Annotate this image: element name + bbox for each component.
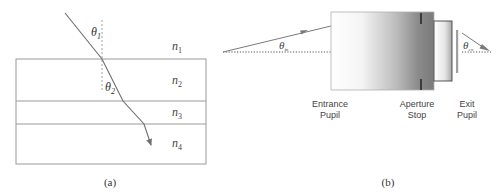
aperture-stop-label-line2: Stop: [408, 110, 427, 120]
exit-section-box: [434, 21, 452, 81]
entrance-pupil-label-line1: Entrance: [312, 99, 348, 109]
entrance-pupil-label-line2: Pupil: [320, 110, 340, 120]
incoming-ray: [223, 26, 331, 52]
theta-in-label: θin: [279, 39, 289, 52]
n3-label: n3: [172, 105, 182, 121]
theta-1-label: θ1: [91, 25, 101, 41]
exit-pupil-label-line2: Pupil: [457, 110, 477, 120]
n1-label: n1: [172, 39, 182, 55]
refracted-ray: [65, 13, 151, 145]
exit-pupil-label-line1: Exit: [459, 99, 475, 109]
exit-ray-arrowhead: [480, 44, 491, 51]
aperture-stop-label-line1: Aperture: [400, 99, 435, 109]
optical-system-box: [331, 12, 434, 90]
panel-a-caption: (a): [104, 176, 117, 189]
n4-label: n4: [172, 136, 182, 152]
n2-label: n2: [172, 73, 182, 89]
theta-ex-label: θex: [463, 39, 474, 52]
figure-canvas: θ1 θ2 n1 n2 n3 n4 (a) θin θex Entra: [0, 0, 500, 192]
panel-b-pupil-diagram: θin θex Entrance Pupil Aperture Stop Exi…: [223, 12, 491, 189]
panel-a-layered-media: θ1 θ2 n1 n2 n3 n4 (a): [16, 13, 206, 189]
exit-pupil-bar: [456, 30, 458, 73]
panel-b-caption: (b): [382, 176, 395, 189]
